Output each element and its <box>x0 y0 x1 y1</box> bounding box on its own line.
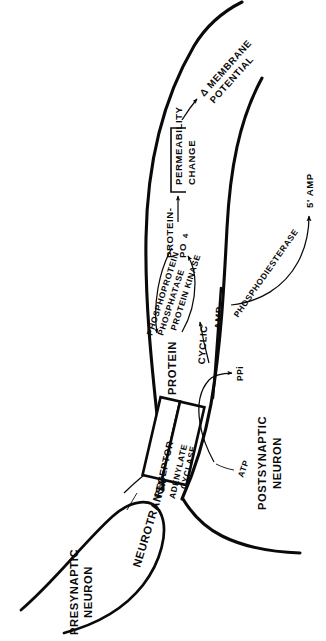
permeability-change-label-line2: CHANGE <box>186 140 197 185</box>
protein-label: PROTEIN <box>166 341 178 395</box>
five-prime-amp-label: 5' AMP <box>304 173 315 208</box>
permeability-change-label-line1: PERMEABILITY <box>173 106 184 185</box>
atp-leader <box>216 464 234 470</box>
protein-po4-label-line1: PROTEIN- <box>164 207 175 258</box>
diagram-canvas: PRESYNAPTIC NEURON NEUROTRANSMITTER POST… <box>0 0 326 641</box>
atp-label: ATP <box>235 458 251 478</box>
protein-po4-label-line2: PO <box>177 243 188 258</box>
neurotransmitter-leader <box>127 493 137 510</box>
amp-label: AMP <box>212 306 225 330</box>
ppi-release-arrow <box>209 373 232 380</box>
permeability-to-potential-arrow <box>182 99 197 120</box>
postsynaptic-neuron-label-line1: POSTSYNAPTIC <box>256 416 268 510</box>
ppi-label: PPi <box>235 366 245 381</box>
presynaptic-neuron-label-line1: PRESYNAPTIC <box>68 549 80 635</box>
protein-po4-subscript: 4 <box>181 233 190 238</box>
postsynaptic-lower-membrane <box>183 499 300 553</box>
postsynaptic-neuron-label-line2: NEURON <box>271 437 283 489</box>
presynaptic-neuron-label-line2: NEURON <box>82 566 94 618</box>
phosphodiesterase-label: PHOSPHODIESTERASE <box>231 227 300 319</box>
synaptic-signaling-diagram: PRESYNAPTIC NEURON NEUROTRANSMITTER POST… <box>0 0 326 641</box>
